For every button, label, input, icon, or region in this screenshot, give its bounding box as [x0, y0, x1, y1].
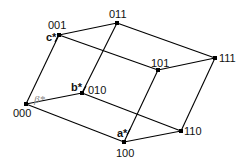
label-011: 011	[109, 8, 127, 20]
node-110	[179, 129, 183, 133]
label-beta-star: β*	[33, 93, 45, 105]
edge-011-111	[117, 23, 215, 58]
node-100	[122, 140, 126, 144]
cube-lattice-diagram: 000 001 010 011 100 101 110 111 c* b* a*…	[0, 0, 246, 163]
label-b-star: b*	[71, 81, 83, 93]
label-100: 100	[116, 147, 134, 159]
node-000	[24, 102, 28, 106]
tick-a-star	[127, 129, 130, 135]
edge-100-110	[124, 131, 181, 142]
edge-001-011	[59, 23, 117, 35]
labels: 000 001 010 011 100 101 110 111 c* b* a*…	[13, 8, 236, 159]
label-010: 010	[88, 84, 106, 96]
node-111	[213, 56, 217, 60]
label-110: 110	[184, 125, 202, 137]
node-011	[115, 21, 119, 25]
label-000: 000	[13, 107, 31, 119]
edge-000-100	[26, 104, 124, 142]
edge-110-111	[181, 58, 215, 131]
label-111: 111	[219, 52, 236, 64]
label-101: 101	[151, 57, 169, 69]
label-001: 001	[48, 19, 66, 31]
edge-010-011	[82, 23, 117, 93]
label-c-star: c*	[46, 31, 57, 43]
label-a-star: a*	[117, 127, 128, 139]
